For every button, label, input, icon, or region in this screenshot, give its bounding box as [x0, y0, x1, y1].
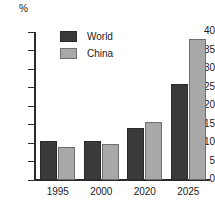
bar-world-2025 — [171, 84, 188, 180]
bar-world-1995 — [40, 141, 57, 180]
bar-group — [167, 30, 211, 180]
y-tick-mark — [28, 32, 34, 33]
bar-china-2025 — [189, 39, 206, 180]
bar-groups — [36, 30, 210, 180]
y-axis-unit-label: % — [19, 3, 28, 14]
bar-group — [123, 30, 167, 180]
y-tick-mark — [28, 106, 34, 107]
x-tick-label: 2025 — [160, 186, 215, 197]
bar-china-1995 — [58, 147, 75, 180]
bar-world-2000 — [84, 141, 101, 180]
bar-chart: % 4035302520151050 World China 199520002… — [0, 0, 215, 210]
y-tick-mark — [28, 143, 34, 144]
y-tick-mark — [28, 124, 34, 125]
bar-china-2020 — [145, 122, 162, 180]
bar-group — [36, 30, 80, 180]
y-tick-mark — [28, 161, 34, 162]
bar-group — [80, 30, 124, 180]
y-tick-mark — [28, 69, 34, 70]
bar-world-2020 — [127, 128, 144, 180]
y-tick-mark — [28, 180, 34, 181]
y-tick-mark — [28, 50, 34, 51]
bar-china-2000 — [102, 144, 119, 180]
y-tick-mark — [28, 87, 34, 88]
